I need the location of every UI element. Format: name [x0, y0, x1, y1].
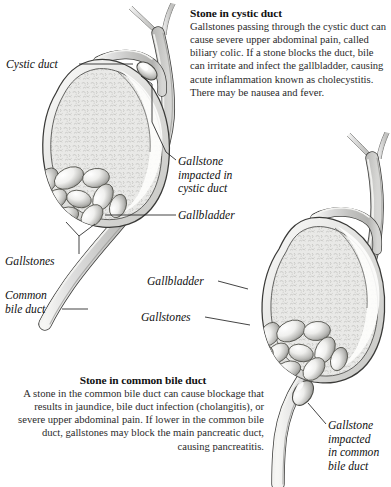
label-gallbladder-2: Gallbladder: [147, 275, 204, 289]
text-block-stone-in-common-bile-duct: Stone in common bile duct A stone in the…: [16, 374, 264, 453]
label-gallstones-2: Gallstones: [141, 311, 191, 325]
leader-gallstone-cbd: [308, 403, 326, 424]
text-block-stone-in-cystic-duct: Stone in cystic duct Gallstones passing …: [190, 7, 389, 99]
label-line-1: Common: [5, 289, 47, 303]
leader-gallbladder-2: [218, 281, 248, 289]
label-cystic-duct: Cystic duct: [6, 58, 58, 72]
label-line-4: bile duct: [328, 460, 379, 474]
label-line-3: in common: [328, 446, 379, 460]
label-gallbladder-1: Gallbladder: [178, 209, 235, 223]
label-gallstone-impacted-in-common-bile-duct: Gallstone impacted in common bile duct: [328, 419, 379, 473]
heading-stone-in-common-bile-duct: Stone in common bile duct: [22, 374, 264, 386]
body-stone-in-common-bile-duct: A stone in the common bile duct can caus…: [16, 387, 264, 453]
label-line-3: cystic duct: [178, 182, 232, 196]
label-line-1: Gallstone: [178, 155, 232, 169]
label-line-2: bile duct: [5, 303, 47, 317]
label-gallstone-impacted-in-cystic-duct: Gallstone impacted in cystic duct: [178, 155, 232, 196]
label-line-2: impacted: [328, 433, 379, 447]
label-line-1: Gallstone: [328, 419, 379, 433]
leader-gallstones-2: [205, 317, 250, 325]
heading-stone-in-cystic-duct: Stone in cystic duct: [190, 7, 389, 19]
label-gallstones-1: Gallstones: [5, 255, 55, 269]
label-line-2: impacted in: [178, 169, 232, 183]
label-common-bile-duct: Common bile duct: [5, 289, 47, 316]
body-stone-in-cystic-duct: Gallstones passing through the cystic du…: [190, 20, 389, 99]
